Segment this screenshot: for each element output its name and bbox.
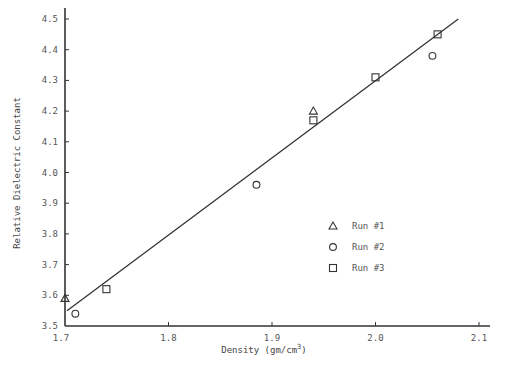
x-tick-label: 1.8: [160, 333, 176, 343]
legend-label: Run #3: [352, 263, 385, 273]
square-legend-icon: [330, 265, 337, 272]
x-tick-label: 1.9: [264, 333, 280, 343]
square-marker-icon: [103, 286, 110, 293]
y-tick-label: 3.7: [42, 260, 58, 270]
legend: Run #1Run #2Run #3: [329, 221, 385, 273]
x-axis-title: Density (gm/cm3): [221, 343, 307, 355]
scatter-chart: 3.53.63.73.83.94.04.14.24.34.44.51.71.81…: [0, 0, 510, 366]
square-marker-icon: [372, 74, 379, 81]
y-tick-label: 4.0: [42, 168, 58, 178]
y-tick-label: 3.5: [42, 321, 58, 331]
y-tick-label: 3.8: [42, 229, 58, 239]
circle-marker-icon: [429, 52, 436, 59]
legend-label: Run #1: [352, 221, 385, 231]
triangle-legend-icon: [329, 222, 337, 229]
fit-line: [67, 19, 458, 311]
legend-label: Run #2: [352, 242, 385, 252]
y-tick-label: 4.3: [42, 75, 58, 85]
y-tick-label: 4.2: [42, 106, 58, 116]
circle-marker-icon: [72, 310, 79, 317]
y-tick-label: 3.9: [42, 198, 58, 208]
y-tick-label: 4.4: [42, 45, 58, 55]
x-tick-label: 2.1: [471, 333, 487, 343]
regression-line: [67, 19, 458, 311]
circle-legend-icon: [330, 244, 337, 251]
square-marker-icon: [310, 117, 317, 124]
x-tick-label: 1.7: [53, 333, 69, 343]
y-tick-label: 3.6: [42, 290, 58, 300]
y-axis-title: Relative Dielectric Constant: [12, 97, 22, 249]
triangle-marker-icon: [309, 107, 317, 114]
circle-marker-icon: [253, 181, 260, 188]
y-tick-label: 4.5: [42, 14, 58, 24]
y-tick-label: 4.1: [42, 137, 58, 147]
x-tick-label: 2.0: [367, 333, 383, 343]
